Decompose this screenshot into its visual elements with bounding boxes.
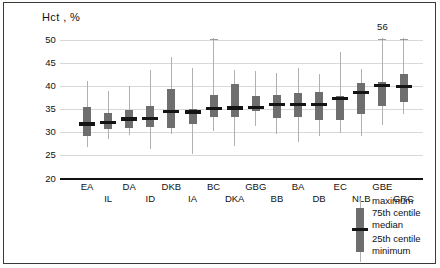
boxplot-da: [119, 0, 139, 200]
x-label-il: IL: [104, 194, 112, 204]
box-body: [357, 83, 365, 114]
box-body: [273, 95, 281, 118]
y-tick-label: 50: [34, 35, 56, 45]
median-line: [248, 106, 264, 109]
legend-label-maximum: maximum: [372, 196, 413, 206]
y-tick-label: 25: [34, 150, 56, 160]
y-tick-30: 30: [12, 127, 56, 137]
legend-median-line: [352, 228, 368, 231]
median-line: [290, 103, 306, 106]
boxplot-bb: [267, 0, 287, 200]
median-line: [396, 85, 412, 88]
x-label-gbg: GBG: [245, 182, 266, 192]
box-body: [231, 84, 239, 117]
boxplot-chart: Hct , % 20253035404550 56 EAILDAIDDKBIAB…: [0, 0, 440, 268]
y-tick-20: 20: [12, 174, 56, 184]
boxplot-ec: [330, 0, 350, 200]
y-tick-label: 40: [34, 81, 56, 91]
max-value-annotation: 56: [377, 22, 388, 32]
box-body: [83, 107, 91, 136]
clipped-max-marker: [210, 39, 218, 40]
y-tick-25: 25: [12, 150, 56, 160]
median-line: [353, 91, 369, 94]
y-tick-50: 50: [12, 35, 56, 45]
box-body: [167, 89, 175, 128]
median-line: [269, 103, 285, 106]
x-label-ba: BA: [292, 182, 305, 192]
x-label-ea: EA: [81, 182, 94, 192]
median-line: [142, 117, 158, 120]
clipped-max-marker: [378, 39, 386, 40]
median-line: [227, 106, 243, 109]
median-line: [100, 121, 116, 124]
boxplot-bc: [204, 0, 224, 200]
median-line: [206, 107, 222, 110]
boxplot-ba: [288, 0, 308, 200]
legend-label-minimum: minimum: [372, 246, 411, 256]
boxplot-gbe: 56: [372, 0, 392, 200]
boxplot-grc: [394, 0, 414, 200]
x-label-da: DA: [123, 182, 136, 192]
boxplot-dka: [225, 0, 245, 200]
median-line: [163, 110, 179, 113]
x-label-dkb: DKB: [162, 182, 182, 192]
y-tick-40: 40: [12, 81, 56, 91]
boxplot-ea: [77, 0, 97, 200]
x-label-id: ID: [146, 194, 156, 204]
boxplot-nlb: [351, 0, 371, 200]
boxplot-id: [140, 0, 160, 200]
legend: maximum75th centilemedian25th centilemin…: [352, 196, 438, 264]
legend-label-75th-centile: 75th centile: [372, 208, 421, 218]
y-tick-label: 35: [34, 104, 56, 114]
median-line: [374, 84, 390, 87]
x-label-db: DB: [312, 194, 325, 204]
x-label-gbe: GBE: [372, 182, 392, 192]
y-tick-45: 45: [12, 58, 56, 68]
x-label-bc: BC: [207, 182, 220, 192]
median-line: [311, 103, 327, 106]
x-label-bb: BB: [271, 194, 284, 204]
x-label-dka: DKA: [225, 194, 245, 204]
y-tick-label: 20: [34, 174, 56, 184]
clipped-max-marker: [400, 39, 408, 40]
box-body: [400, 74, 408, 102]
x-label-ec: EC: [334, 182, 347, 192]
whisker-line: [213, 38, 214, 131]
y-tick-35: 35: [12, 104, 56, 114]
box-body: [315, 92, 323, 120]
chart-title: Hct , %: [42, 12, 80, 23]
y-tick-label: 45: [34, 58, 56, 68]
boxplot-il: [98, 0, 118, 200]
x-label-ia: IA: [188, 194, 197, 204]
y-tick-label: 30: [34, 127, 56, 137]
median-line: [185, 110, 201, 113]
legend-label-median: median: [372, 220, 403, 230]
boxplot-ia: [183, 0, 203, 200]
legend-boxplot-glyph: [352, 198, 368, 262]
scanned-page: Hct , % 20253035404550 56 EAILDAIDDKBIAB…: [0, 0, 440, 268]
median-line: [79, 122, 95, 125]
boxplot-db: [309, 0, 329, 200]
median-line: [332, 97, 348, 100]
whisker-line: [340, 52, 341, 134]
boxplot-gbg: [246, 0, 266, 200]
median-line: [121, 117, 137, 120]
legend-label-25th-centile: 25th centile: [372, 234, 421, 244]
boxplot-dkb: [161, 0, 181, 200]
